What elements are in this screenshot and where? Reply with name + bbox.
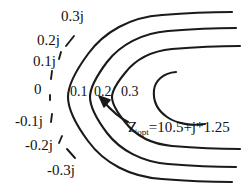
axis-label-reactance-0.1j: 0.1j xyxy=(33,54,56,69)
circle-label-0.2: 0.2 xyxy=(94,85,112,99)
resistance-circle-0.1-tail-top xyxy=(162,12,232,15)
resistance-circle-0.2-tail-bottom xyxy=(168,164,236,167)
resistance-circle-0.1-tail-bottom xyxy=(162,179,232,182)
axis-label-reactance--0.3j: -0.3j xyxy=(47,163,75,178)
resistance-circle-inner xyxy=(154,72,205,125)
zopt-value: =10.5+j*1.25 xyxy=(149,119,230,135)
axis-label-reactance--0.2j: -0.2j xyxy=(25,138,53,153)
resistance-circle-0.3-tail-bottom xyxy=(172,146,240,149)
axis-label-reactance-0.3j: 0.3j xyxy=(61,9,84,24)
reactance-tick--0.2j xyxy=(59,136,62,143)
reactance-tick-0.2j xyxy=(59,52,61,59)
zopt-annotation: Zopt=10.5+j*1.25 xyxy=(128,120,230,135)
axis-label-reactance-0.2j: 0.2j xyxy=(37,33,60,48)
impedance-circle-chart: 0.3j 0.2j 0.1j 0 -0.1j -0.2j -0.3j 0.1 0… xyxy=(0,0,251,194)
resistance-circle-0.3-tail-top xyxy=(172,46,240,49)
circle-label-0.1: 0.1 xyxy=(70,85,88,99)
axis-label-reactance--0.1j: -0.1j xyxy=(15,114,43,129)
reactance-tick-0.3j xyxy=(66,36,74,46)
circle-label-0.3: 0.3 xyxy=(121,85,139,99)
reactance-tick--0.3j xyxy=(67,149,75,158)
reactance-tick--0.1j xyxy=(51,114,52,122)
resistance-circle-0.2-tail-top xyxy=(168,28,236,31)
reactance-tick-0.1j xyxy=(51,71,52,79)
zopt-subscript: opt xyxy=(137,127,149,137)
zopt-symbol: Z xyxy=(128,119,137,135)
axis-label-reactance-0: 0 xyxy=(34,82,42,97)
